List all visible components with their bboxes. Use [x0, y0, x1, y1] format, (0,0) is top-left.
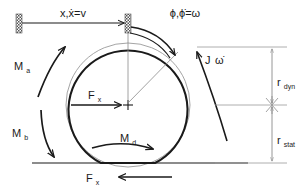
wheel-axis-support-icon: [125, 14, 131, 33]
moment-b-label: M b: [12, 127, 28, 141]
force-center-label: F x: [88, 89, 102, 103]
radius-dyn-label: r dyn: [277, 76, 295, 91]
force-ground-label: F x: [86, 172, 100, 186]
radius-dyn-symbol: r: [277, 76, 281, 88]
moment-a-label: M a: [14, 60, 30, 74]
force-ground-subscript: x: [96, 179, 100, 186]
inertia-torque-symbol: J: [205, 54, 211, 66]
radius-dyn-subscript: dyn: [284, 83, 295, 91]
radius-stat-subscript: stat: [284, 141, 295, 148]
moment-d-arrow: [92, 144, 153, 149]
moment-a-symbol: M: [14, 60, 23, 72]
radius-stat-label: r stat: [277, 134, 295, 148]
angular-reference-radius: [128, 52, 178, 103]
moment-d-label: M d: [120, 132, 136, 146]
inertia-torque-omega-dot: ω̇: [215, 54, 225, 66]
moment-a-arrow: [38, 47, 65, 97]
moment-b-subscript: b: [24, 134, 28, 141]
force-ground-symbol: F: [86, 172, 93, 184]
moment-d-subscript: d: [132, 139, 136, 146]
force-center-symbol: F: [88, 89, 95, 101]
force-center-subscript: x: [98, 96, 102, 103]
translation-label: x,ẋ=v: [60, 7, 86, 19]
moment-d-symbol: M: [120, 132, 129, 144]
moment-b-arrow: [41, 110, 54, 157]
diagram-canvas: x,ẋ=v ϕ,ϕ̇=ω J ω̇ M a M b M d: [0, 0, 302, 189]
radius-stat-symbol: r: [277, 134, 281, 146]
moment-b-symbol: M: [12, 127, 21, 139]
rotation-label: ϕ,ϕ̇=ω: [170, 7, 201, 19]
wheel-free-body-diagram: x,ẋ=v ϕ,ϕ̇=ω J ω̇ M a M b M d: [0, 0, 302, 189]
fixed-support-left-icon: [16, 14, 22, 33]
inertia-torque-label: J ω̇: [205, 54, 225, 66]
moment-a-subscript: a: [26, 67, 30, 74]
